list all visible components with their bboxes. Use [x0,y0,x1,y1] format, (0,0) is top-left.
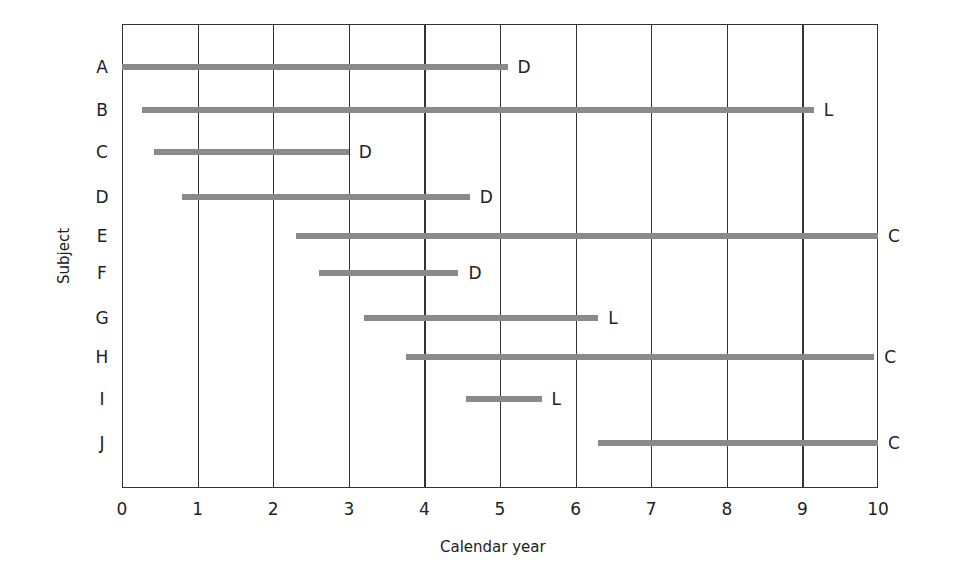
gridline [576,24,577,488]
outcome-label: L [552,389,561,409]
gridline [273,24,274,488]
x-tick-label: 4 [404,499,444,519]
x-tick-label: 5 [480,499,520,519]
subject-label: I [90,389,114,409]
subject-bar [406,354,875,360]
subject-label: J [90,433,114,453]
outcome-label: D [359,142,372,162]
x-tick-label: 1 [178,499,218,519]
subject-bar [182,194,469,200]
subject-bar [122,64,508,70]
subject-bar [364,315,598,321]
subject-bar [319,270,459,276]
gridline [424,24,425,488]
subject-label: G [90,308,114,328]
swimmer-chart: ADBLCDDDECFDGLHCILJC 012345678910 Calend… [0,0,959,583]
subject-bar [296,233,878,239]
x-tick-label: 3 [329,499,369,519]
outcome-label: C [888,433,900,453]
outcome-label: L [608,308,617,328]
x-tick-label: 10 [858,499,898,519]
gridline [198,24,199,488]
gridline [651,24,652,488]
gridline [727,24,728,488]
subject-label: C [90,142,114,162]
x-tick-label: 0 [102,499,142,519]
subject-label: D [90,187,114,207]
gridline [802,24,803,488]
subject-bar [466,396,542,402]
gridline [349,24,350,488]
subject-label: B [90,100,114,120]
outcome-label: L [824,100,833,120]
subject-label: F [90,263,114,283]
x-tick-label: 6 [556,499,596,519]
subject-bar [598,440,878,446]
outcome-label: C [884,347,896,367]
outcome-label: D [480,187,493,207]
outcome-label: D [518,57,531,77]
x-tick-label: 8 [707,499,747,519]
subject-label: H [90,347,114,367]
x-tick-label: 2 [253,499,293,519]
subject-label: E [90,226,114,246]
gridline [500,24,501,488]
outcome-label: D [468,263,481,283]
y-axis-label: Subject [55,228,73,284]
subject-label: A [90,57,114,77]
subject-bar [142,107,813,113]
subject-bar [154,149,349,155]
x-tick-label: 9 [782,499,822,519]
x-tick-label: 7 [631,499,671,519]
x-axis-label: Calendar year [440,538,546,556]
outcome-label: C [888,226,900,246]
